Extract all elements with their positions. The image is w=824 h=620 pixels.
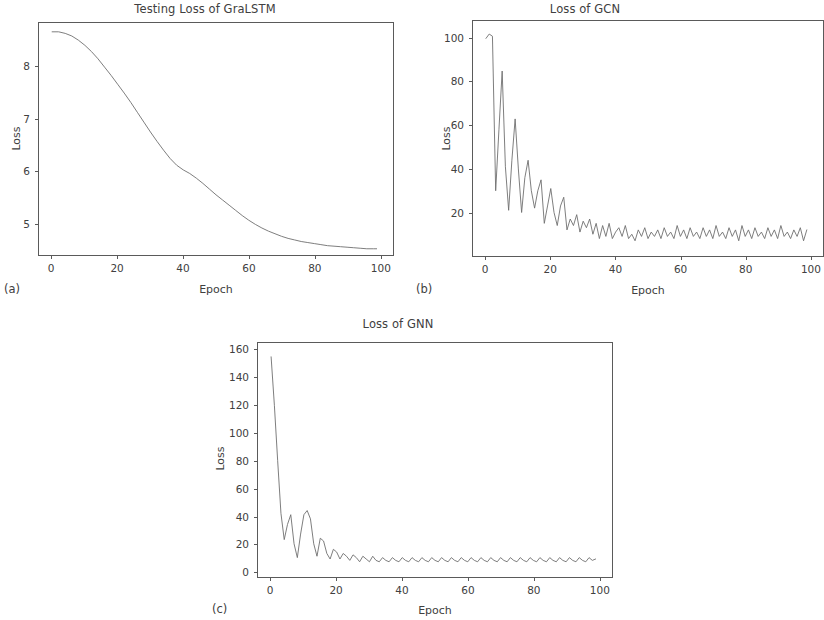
y-tick-mark <box>469 125 472 126</box>
panel-letter-b: (b) <box>416 282 432 296</box>
y-tick-label: 160 <box>209 343 249 355</box>
y-tick-mark <box>469 169 472 170</box>
chart-title-b: Loss of GCN <box>382 2 788 16</box>
chart-title-c: Loss of GNN <box>220 317 576 331</box>
y-tick-mark <box>254 377 257 378</box>
y-axis-label-c: Loss <box>214 439 227 479</box>
y-axis-label-b: Loss <box>440 119 453 159</box>
x-tick-label: 100 <box>590 584 610 596</box>
x-tick-mark <box>746 257 747 260</box>
y-tick-mark <box>254 461 257 462</box>
y-tick-mark <box>254 544 257 545</box>
x-tick-mark <box>468 578 469 581</box>
y-tick-label: 60 <box>209 483 249 495</box>
y-tick-label: 40 <box>209 511 249 523</box>
x-tick-mark <box>600 578 601 581</box>
y-tick-label: 0 <box>209 566 249 578</box>
x-tick-mark <box>811 257 812 260</box>
y-tick-label: 40 <box>424 163 464 175</box>
y-tick-label: 6 <box>0 165 30 177</box>
y-tick-label: 5 <box>0 218 30 230</box>
x-tick-mark <box>381 256 382 259</box>
panel-letter-c: (c) <box>212 602 227 616</box>
y-tick-mark <box>35 224 38 225</box>
x-tick-label: 80 <box>308 262 321 274</box>
y-tick-mark <box>35 171 38 172</box>
x-tick-mark <box>183 256 184 259</box>
x-tick-label: 40 <box>609 263 622 275</box>
x-tick-label: 100 <box>371 262 391 274</box>
plot-area-c <box>257 342 613 578</box>
y-tick-label: 20 <box>424 207 464 219</box>
y-tick-label: 20 <box>209 538 249 550</box>
x-tick-label: 60 <box>461 584 474 596</box>
plot-curve-c <box>258 343 612 577</box>
x-tick-mark <box>51 256 52 259</box>
x-tick-label: 60 <box>674 263 687 275</box>
y-tick-mark <box>469 81 472 82</box>
x-tick-mark <box>681 257 682 260</box>
panel-letter-a: (a) <box>4 282 20 296</box>
x-axis-label-a: Epoch <box>199 283 233 296</box>
x-tick-mark <box>402 578 403 581</box>
y-tick-mark <box>254 349 257 350</box>
x-tick-mark <box>249 256 250 259</box>
y-tick-mark <box>254 517 257 518</box>
y-tick-label: 120 <box>209 399 249 411</box>
x-tick-label: 60 <box>242 262 255 274</box>
y-tick-mark <box>254 433 257 434</box>
y-tick-label: 140 <box>209 371 249 383</box>
x-tick-label: 80 <box>739 263 752 275</box>
x-tick-mark <box>336 578 337 581</box>
x-tick-mark <box>117 256 118 259</box>
plot-curve-b <box>473 21 823 256</box>
y-tick-mark <box>254 572 257 573</box>
plot-curve-a <box>39 23 393 255</box>
x-tick-mark <box>315 256 316 259</box>
y-tick-mark <box>35 119 38 120</box>
y-tick-label: 100 <box>209 427 249 439</box>
x-tick-label: 0 <box>48 262 55 274</box>
y-tick-mark <box>35 66 38 67</box>
x-tick-mark <box>270 578 271 581</box>
plot-area-b <box>472 20 824 257</box>
chart-title-a: Testing Loss of GraLSTM <box>0 2 410 16</box>
x-tick-label: 40 <box>176 262 189 274</box>
x-tick-mark <box>485 257 486 260</box>
x-tick-mark <box>615 257 616 260</box>
x-tick-label: 20 <box>329 584 342 596</box>
chart-panel-a: Testing Loss of GraLSTM 5678 02040608010… <box>0 0 410 310</box>
x-tick-label: 80 <box>527 584 540 596</box>
x-tick-label: 20 <box>110 262 123 274</box>
y-tick-label: 8 <box>0 60 30 72</box>
x-tick-label: 20 <box>544 263 557 275</box>
y-tick-label: 100 <box>424 32 464 44</box>
y-tick-mark <box>469 213 472 214</box>
x-tick-label: 0 <box>482 263 489 275</box>
x-tick-mark <box>534 578 535 581</box>
x-axis-label-c: Epoch <box>418 604 452 617</box>
chart-panel-b: Loss of GCN 20406080100 020406080100 Epo… <box>412 0 818 310</box>
y-tick-mark <box>254 489 257 490</box>
x-tick-label: 100 <box>801 263 821 275</box>
y-tick-mark <box>469 38 472 39</box>
y-tick-label: 80 <box>424 75 464 87</box>
chart-panel-c: Loss of GNN 020406080100120140160 020406… <box>190 312 630 620</box>
x-tick-label: 0 <box>267 584 274 596</box>
x-axis-label-b: Epoch <box>631 284 665 297</box>
y-axis-label-a: Loss <box>10 119 23 159</box>
plot-area-a <box>38 22 394 256</box>
x-tick-label: 40 <box>395 584 408 596</box>
y-tick-mark <box>254 405 257 406</box>
x-tick-mark <box>550 257 551 260</box>
